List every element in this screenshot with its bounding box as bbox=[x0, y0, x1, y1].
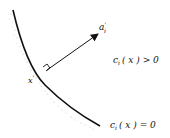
normal-vector-label: a'i bbox=[99, 21, 106, 34]
infeasible-shading bbox=[9, 14, 94, 130]
boundary-label: ci( x ) = 0 bbox=[110, 120, 156, 131]
constraint-boundary-curve bbox=[13, 10, 100, 126]
feasible-region-label: ci( x ) > 0 bbox=[113, 55, 159, 66]
normal-vector-arrow bbox=[47, 34, 98, 70]
right-angle-marker bbox=[43, 64, 50, 71]
point-label: x' bbox=[28, 74, 35, 85]
constraint-diagram: a'i x' ci( x ) > 0 ci( x ) = 0 bbox=[0, 0, 170, 138]
